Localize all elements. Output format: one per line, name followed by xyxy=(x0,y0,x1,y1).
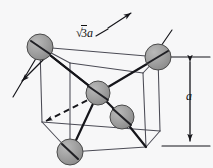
figure-container: √3a a xyxy=(0,0,213,168)
edge-length-label: a xyxy=(186,90,192,102)
label-leader-line xyxy=(96,29,108,36)
bcc-unit-cell-drawing xyxy=(0,0,213,168)
cube-edge-back-top xyxy=(40,47,158,57)
dimension-arrow-upper xyxy=(108,13,131,28)
cube-edge-front-top xyxy=(70,63,143,73)
cube-edge-front-right xyxy=(143,73,146,147)
ext-line-lower-left xyxy=(13,55,38,97)
body-diagonal-label: √3a xyxy=(76,27,93,39)
cube-edge-depth-bottom-right xyxy=(146,131,160,147)
cube-edge-back-bottom xyxy=(42,122,160,131)
lattice-parameter-symbol-diagonal: a xyxy=(87,26,93,40)
dimension-edge-a xyxy=(160,57,210,146)
